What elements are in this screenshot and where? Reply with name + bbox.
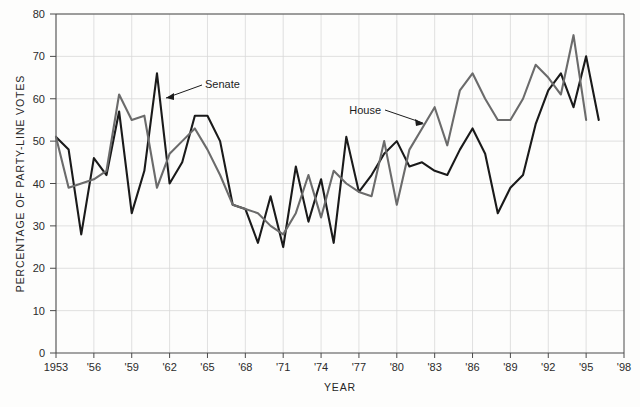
x-tick-label: '56 (87, 361, 101, 373)
y-tick-label: 30 (33, 220, 45, 232)
x-tick-label: '80 (390, 361, 404, 373)
x-tick-label: '98 (617, 361, 631, 373)
x-tick-label: '92 (541, 361, 555, 373)
house-series-label: House (349, 104, 381, 116)
y-tick-label: 0 (39, 347, 45, 359)
chart-page: 010203040506070801953'56'59'62'65'68'71'… (0, 0, 640, 407)
y-tick-label: 50 (33, 135, 45, 147)
x-tick-label: '74 (314, 361, 328, 373)
x-tick-label: '59 (125, 361, 139, 373)
y-tick-label: 20 (33, 262, 45, 274)
y-tick-label: 70 (33, 50, 45, 62)
x-tick-label: '62 (162, 361, 176, 373)
x-tick-label: '77 (352, 361, 366, 373)
x-tick-label: '89 (503, 361, 517, 373)
x-tick-label: '68 (238, 361, 252, 373)
line-chart: 010203040506070801953'56'59'62'65'68'71'… (0, 0, 640, 407)
x-tick-label: '65 (200, 361, 214, 373)
series-line-senate (56, 56, 599, 247)
y-tick-label: 40 (33, 178, 45, 190)
y-tick-label: 10 (33, 305, 45, 317)
x-tick-label: '95 (579, 361, 593, 373)
x-tick-label: 1953 (44, 361, 68, 373)
x-axis-title: YEAR (324, 381, 356, 393)
y-tick-label: 60 (33, 93, 45, 105)
y-axis-title: PERCENTAGE OF PARTY-LINE VOTES (14, 75, 26, 292)
y-tick-label: 80 (33, 8, 45, 20)
x-tick-label: '71 (276, 361, 290, 373)
senate-series-label: Senate (205, 78, 240, 90)
x-tick-label: '83 (427, 361, 441, 373)
x-tick-label: '86 (465, 361, 479, 373)
